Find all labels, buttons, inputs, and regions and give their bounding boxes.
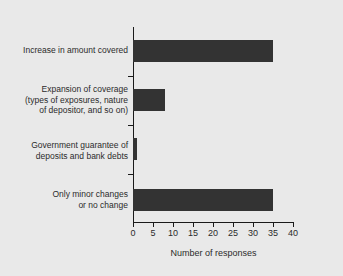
category-label-line: Expansion of coverage [7,84,128,95]
bar-expansion-of-coverage [133,89,165,111]
category-label-line: Government guarantee of [7,140,128,151]
category-label-expansion-of-coverage: Expansion of coverage (types of exposure… [7,84,133,116]
x-axis-tick [193,223,194,227]
bar-government-guarantee [133,138,137,160]
bar-only-minor-changes [133,189,273,211]
bar-increase-in-amount-covered [133,40,273,62]
bar-chart-figure: Increase in amount covered Expansion of … [0,0,343,276]
category-labels: Increase in amount covered Expansion of … [0,0,133,276]
category-label-increase-in-amount-covered: Increase in amount covered [7,45,133,56]
category-label-line: Increase in amount covered [7,45,128,56]
x-axis-tick [133,223,134,227]
x-axis-tick [213,223,214,227]
x-axis-title: Number of responses [133,248,294,258]
category-label-line: or no change [7,200,128,211]
x-axis-tick [233,223,234,227]
x-axis-tick [273,223,274,227]
x-axis-tick [293,223,294,227]
category-label-only-minor-changes: Only minor changes or no change [7,189,133,210]
category-label-line: (types of exposures, nature [7,95,128,106]
category-label-line: Only minor changes [7,189,128,200]
plot-area [133,27,293,222]
x-axis-tick [173,223,174,227]
x-axis-tick [253,223,254,227]
x-axis-tick-label: 40 [281,228,305,239]
x-axis-tick [153,223,154,227]
category-label-line: deposits and bank debts [7,151,128,162]
category-label-line: of depositor, and so on) [7,105,128,116]
category-label-government-guarantee: Government guarantee of deposits and ban… [7,140,133,161]
